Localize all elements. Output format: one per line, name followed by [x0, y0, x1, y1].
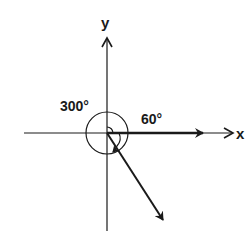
angle-label-60: 60°	[141, 111, 162, 127]
terminal-side-vector	[107, 133, 163, 220]
angle-arc-arrow	[107, 127, 120, 152]
angle-label-300: 300°	[60, 98, 89, 114]
angle-diagram: y x 300° 60°	[0, 0, 250, 242]
x-axis-label: x	[236, 125, 245, 142]
y-axis-label: y	[101, 14, 110, 31]
